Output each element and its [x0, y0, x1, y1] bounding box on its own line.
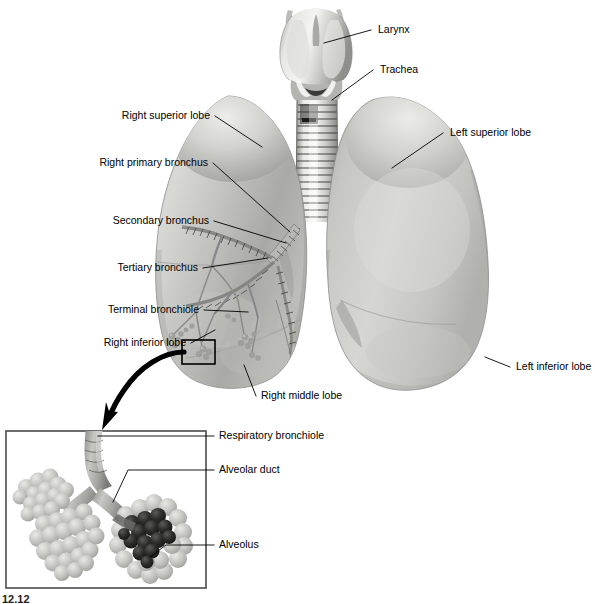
label-left-superior-lobe: Left superior lobe [450, 126, 531, 138]
label-right-superior-lobe: Right superior lobe [122, 109, 210, 121]
label-trachea: Trachea [380, 63, 418, 75]
anatomy-figure: Larynx Trachea Right superior lobe Left … [0, 0, 595, 604]
label-terminal-bronchiole: Terminal bronchiole [108, 303, 199, 315]
larynx-illustration [280, 8, 352, 100]
label-larynx: Larynx [378, 23, 410, 35]
label-tertiary-bronchus: Tertiary bronchus [117, 261, 198, 273]
label-alveolus: Alveolus [219, 538, 259, 550]
label-right-primary-bronchus: Right primary bronchus [99, 156, 208, 168]
label-alveolar-duct: Alveolar duct [219, 463, 280, 475]
label-respiratory-bronchiole: Respiratory bronchiole [219, 429, 324, 441]
label-secondary-bronchus: Secondary bronchus [113, 214, 209, 226]
label-left-inferior-lobe: Left inferior lobe [516, 360, 591, 372]
figure-caption: 12.12 [2, 593, 30, 604]
label-right-inferior-lobe: Right inferior lobe [104, 336, 186, 348]
label-right-middle-lobe: Right middle lobe [261, 389, 342, 401]
